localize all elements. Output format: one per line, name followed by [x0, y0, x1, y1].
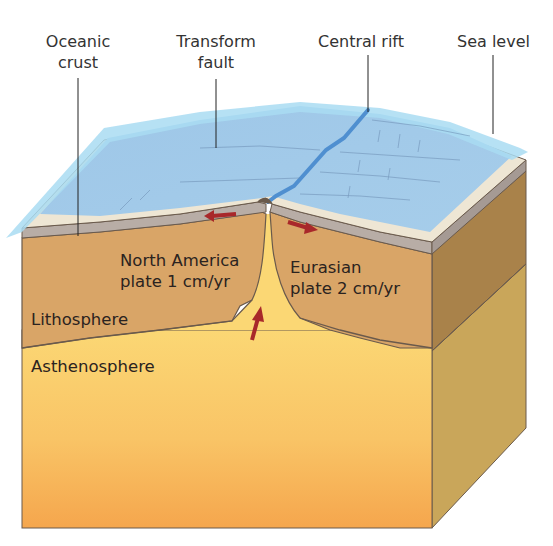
transform-fault-label: Transform fault — [168, 31, 264, 73]
eurasian-plate-speed: plate 2 cm/yr — [290, 278, 400, 299]
mid-ocean-ridge-diagram — [0, 0, 553, 546]
transform-fault-label-line2: fault — [168, 52, 264, 73]
oceanic-crust-label-line1: Oceanic — [36, 31, 120, 52]
transform-fault-label-line1: Transform — [168, 31, 264, 52]
lithosphere-label: Lithosphere — [31, 309, 128, 330]
north-america-plate-speed: plate 1 cm/yr — [120, 271, 239, 292]
north-america-plate-label: North America plate 1 cm/yr — [120, 250, 239, 292]
central-rift-label: Central rift — [318, 31, 404, 52]
north-america-plate-name: North America — [120, 250, 239, 271]
sea-level-label: Sea level — [457, 31, 530, 52]
asthenosphere-label: Asthenosphere — [31, 356, 155, 377]
oceanic-crust-label-line2: crust — [36, 52, 120, 73]
eurasian-plate-label: Eurasian plate 2 cm/yr — [290, 257, 400, 299]
oceanic-crust-label: Oceanic crust — [36, 31, 120, 73]
eurasian-plate-name: Eurasian — [290, 257, 400, 278]
